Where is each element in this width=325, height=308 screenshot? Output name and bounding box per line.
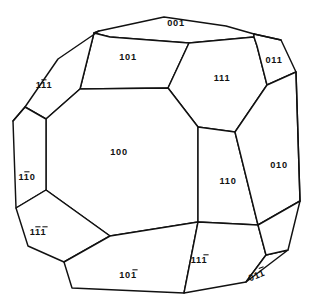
face-101-label: 101 [119,52,136,62]
face-10bar1-miller-index: 101 [119,270,136,280]
faces-group [13,17,300,293]
face-1bar11-miller-index: 111 [36,80,52,90]
face-1bar1bar0-miller-index: 110 [19,172,36,182]
face-001-label: 001 [167,18,184,28]
crystal-polyhedron-svg: 001101111011111100110010110111101111011 [0,0,325,308]
face-010-label: 010 [270,160,287,170]
face-111-top-right-miller-index: 111 [214,73,230,83]
face-110-label: 110 [220,176,237,186]
face-100-label: 100 [110,147,127,157]
crystal-diagram: 001101111011111100110010110111101111011 [0,0,325,308]
face-10bar1-label: 101 [119,270,137,281]
face-1bar11-label: 111 [36,80,52,91]
face-11bar1-miller-index: 111 [191,255,207,265]
face-11bar1-label: 111 [191,255,209,266]
face-110-miller-index: 110 [220,176,237,186]
face-011-miller-index: 011 [266,55,283,65]
face-001-miller-index: 001 [167,18,184,28]
face-010-miller-index: 010 [270,160,287,170]
face-101-miller-index: 101 [119,52,136,62]
face-011-label: 011 [266,55,283,65]
face-111-top-right-label: 111 [214,73,230,83]
face-1bar1bar0-label: 110 [19,172,36,183]
face-1bar1bar1bar-miller-index: 111 [30,227,46,237]
face-100-miller-index: 100 [110,147,127,157]
face-1bar1bar1bar-label: 111 [30,227,48,238]
